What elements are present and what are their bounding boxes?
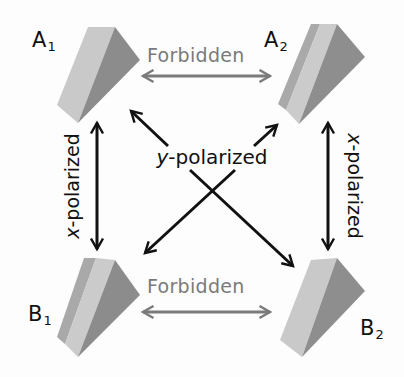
y-polarized-arrow-a1-b2-lower bbox=[190, 170, 293, 266]
y-polarized-arrow-a2-b1 bbox=[145, 170, 235, 253]
y-polarized-arrow-a1-b2 bbox=[131, 111, 168, 146]
y-polarized-label: y-polarized bbox=[156, 147, 267, 167]
forbidden-label-bottom: Forbidden bbox=[147, 277, 245, 296]
prism-b1-icon bbox=[57, 258, 140, 357]
x-polarized-label-left: x-polarized bbox=[63, 133, 82, 239]
forbidden-label-top: Forbidden bbox=[147, 46, 245, 65]
label-a2: A2 bbox=[264, 30, 288, 53]
prism-a2-icon bbox=[278, 24, 365, 124]
label-b1: B1 bbox=[28, 304, 52, 327]
prism-a1-icon bbox=[57, 27, 140, 123]
polarization-transition-diagram: A1 A2 B1 B2 Forbidden Forbidden x-polari… bbox=[0, 0, 404, 377]
prism-b2-icon bbox=[280, 258, 365, 357]
label-a1: A1 bbox=[32, 30, 56, 53]
x-polarized-label-right: x-polarized bbox=[345, 133, 364, 239]
label-b2: B2 bbox=[360, 318, 384, 341]
y-polarized-arrow-a2-b1-upper bbox=[254, 125, 277, 146]
